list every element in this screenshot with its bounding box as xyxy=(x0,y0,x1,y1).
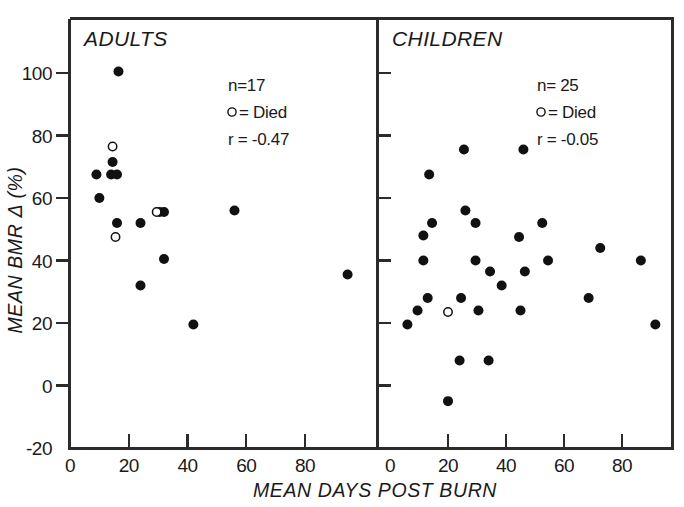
data-point-survived xyxy=(112,218,122,228)
data-point-survived xyxy=(459,145,469,155)
data-point-survived xyxy=(230,206,240,216)
data-point-survived xyxy=(456,293,466,303)
data-point-died xyxy=(111,233,119,241)
data-point-survived xyxy=(497,281,507,291)
x-axis-title: MEAN DAYS POST BURN xyxy=(253,479,497,501)
data-point-survived xyxy=(595,243,605,253)
data-point-survived xyxy=(471,218,481,228)
x-tick-label: 40 xyxy=(496,455,516,476)
data-point-survived xyxy=(423,293,433,303)
died-marker-icon xyxy=(537,108,545,116)
data-point-survived xyxy=(455,356,465,366)
data-point-survived xyxy=(514,232,524,242)
data-points-adults xyxy=(91,66,352,329)
data-point-survived xyxy=(108,157,118,167)
data-point-survived xyxy=(136,218,146,228)
data-point-survived xyxy=(537,218,547,228)
plot-canvas: -20020406080100 002020404060608080 ADULT… xyxy=(0,0,684,507)
data-point-survived xyxy=(520,266,530,276)
data-point-survived xyxy=(636,256,646,266)
x-tick-label: 80 xyxy=(295,455,315,476)
x-tick-label: 0 xyxy=(385,455,395,476)
y-tick-label: 100 xyxy=(22,63,52,84)
y-axis-tick-labels: -20020406080100 xyxy=(22,63,52,459)
data-point-survived xyxy=(460,206,470,216)
x-axis-ticks xyxy=(129,434,622,448)
data-point-survived xyxy=(473,306,483,316)
y-tick-label: 80 xyxy=(32,126,52,147)
data-point-survived xyxy=(418,231,428,241)
data-point-survived xyxy=(113,66,123,76)
data-point-survived xyxy=(136,281,146,291)
x-axis-tick-labels: 002020404060608080 xyxy=(65,455,632,476)
data-point-survived xyxy=(543,256,553,266)
legend-n-adults: n=17 xyxy=(228,76,265,95)
data-point-died xyxy=(444,308,452,316)
legend-n-children: n= 25 xyxy=(537,76,579,95)
data-point-survived xyxy=(188,320,198,330)
y-tick-label: -20 xyxy=(26,438,52,459)
data-point-survived xyxy=(402,320,412,330)
legend-died-children: = Died xyxy=(548,103,596,122)
legend-children: n= 25 = Died r = -0.05 xyxy=(537,76,598,149)
y-tick-label: 40 xyxy=(32,251,52,272)
data-point-survived xyxy=(427,218,437,228)
panel-title-adults: ADULTS xyxy=(82,27,168,50)
data-point-survived xyxy=(518,145,528,155)
y-axis-ticks-children xyxy=(377,73,391,386)
y-axis-title: MEAN BMR Δ (%) xyxy=(4,166,26,333)
data-point-survived xyxy=(443,396,453,406)
legend-adults: n=17 = Died r = -0.47 xyxy=(228,76,289,149)
data-point-survived xyxy=(413,306,423,316)
data-point-survived xyxy=(112,170,122,180)
legend-died-adults: = Died xyxy=(239,103,287,122)
data-point-survived xyxy=(418,256,428,266)
data-point-survived xyxy=(159,254,169,264)
data-point-survived xyxy=(424,170,434,180)
data-point-survived xyxy=(91,170,101,180)
data-point-died xyxy=(152,208,160,216)
data-point-survived xyxy=(485,266,495,276)
died-marker-icon xyxy=(228,108,236,116)
x-tick-label: 20 xyxy=(119,455,139,476)
x-tick-label: 0 xyxy=(65,455,75,476)
data-point-survived xyxy=(471,256,481,266)
legend-r-adults: r = -0.47 xyxy=(228,130,289,149)
y-tick-label: 20 xyxy=(32,313,52,334)
x-tick-label: 40 xyxy=(177,455,197,476)
x-tick-label: 60 xyxy=(554,455,574,476)
legend-r-children: r = -0.05 xyxy=(537,130,598,149)
x-tick-label: 20 xyxy=(438,455,458,476)
data-point-survived xyxy=(343,270,353,280)
scatter-figure: -20020406080100 002020404060608080 ADULT… xyxy=(0,0,684,507)
panel-title-children: CHILDREN xyxy=(392,27,503,50)
data-point-survived xyxy=(484,356,494,366)
data-point-survived xyxy=(516,306,526,316)
data-point-survived xyxy=(94,193,104,203)
y-axis-ticks xyxy=(56,73,70,386)
y-tick-label: 60 xyxy=(32,188,52,209)
x-tick-label: 60 xyxy=(236,455,256,476)
data-point-survived xyxy=(584,293,594,303)
data-point-died xyxy=(108,142,116,150)
data-points-children xyxy=(402,145,660,407)
data-point-survived xyxy=(650,320,660,330)
y-tick-label: 0 xyxy=(42,376,52,397)
x-tick-label: 80 xyxy=(612,455,632,476)
